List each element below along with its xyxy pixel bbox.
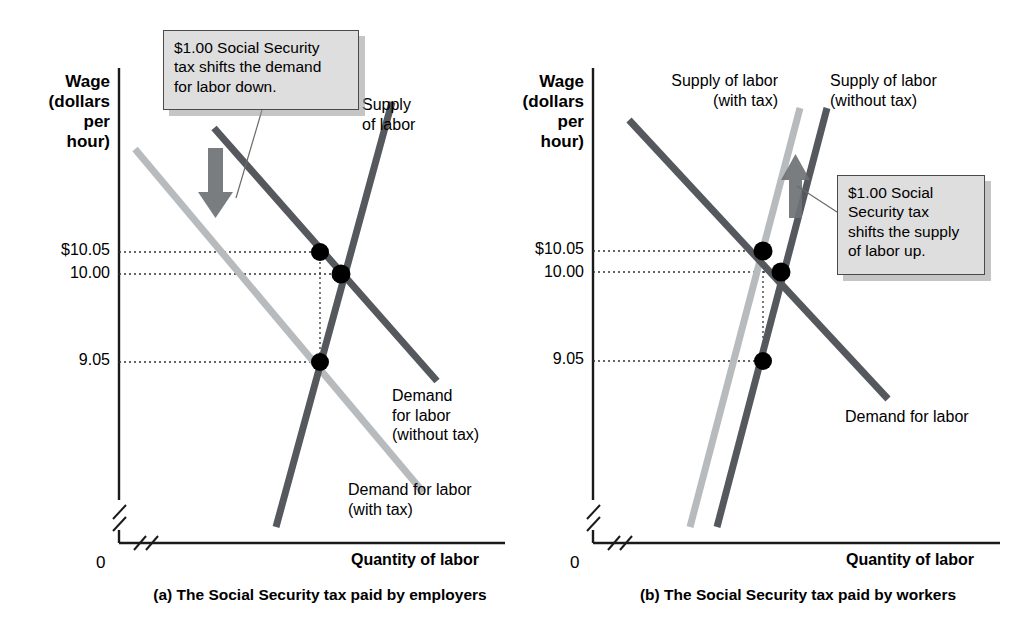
panel-b-label-supply-with-tax: Supply of labor (with tax) — [616, 71, 778, 110]
panel-b-y-axis-break-2 — [587, 517, 600, 531]
panel-a-callout: $1.00 Social Security tax shifts the dem… — [163, 30, 359, 110]
panel-a-label-demand-with-tax: Demand for labor (with tax) — [348, 480, 472, 519]
panel-a-shift-arrow-down — [198, 148, 233, 218]
panel-b-caption: (b) The Social Security tax paid by work… — [588, 586, 1008, 604]
panel-a-dot-905 — [311, 353, 329, 371]
panel-a-y-axis-title: Wage (dollars per hour) — [18, 72, 110, 152]
panel-b-curve-supply-with-tax — [690, 108, 800, 527]
panel-a-label-demand-without-tax: Demand for labor (without tax) — [392, 386, 479, 445]
panel-b-y-axis-title: Wage (dollars per hour) — [492, 72, 584, 152]
panel-b-tick-label-905: 9.05 — [492, 350, 584, 369]
panel-b-dot-905 — [754, 352, 772, 370]
panel-a-tick-label-1005: $10.05 — [18, 241, 110, 260]
panel-a-caption: (a) The Social Security tax paid by empl… — [110, 586, 530, 604]
panel-b-label-demand-for-labor: Demand for labor — [845, 407, 969, 427]
panel-b-x-axis-title: Quantity of labor — [846, 551, 974, 570]
panel-b-callout: $1.00 Social Security tax shifts the sup… — [837, 175, 985, 275]
panel-a-graphics — [113, 68, 505, 550]
panel-a-tick-label-1000: 10.00 — [18, 264, 110, 283]
panel-b-origin-label: 0 — [570, 553, 579, 573]
panel-b-graphics — [587, 68, 1000, 550]
panel-a-dot-1005 — [311, 243, 329, 261]
panel-b-dot-1000 — [772, 263, 791, 282]
panel-b-y-axis-break-1 — [587, 505, 600, 519]
panel-a-tick-label-905: 9.05 — [18, 351, 110, 370]
panel-a-dot-1000 — [332, 265, 351, 284]
panel-b-tick-label-1000: 10.00 — [492, 263, 584, 282]
panel-a-y-axis-break-1 — [113, 505, 126, 519]
panel-b-tick-label-1005: $10.05 — [492, 240, 584, 259]
figure-canvas: Wage (dollars per hour) $10.05 10.00 9.0… — [0, 0, 1023, 636]
panel-b-dot-1005 — [754, 242, 773, 261]
panel-b-label-supply-without-tax: Supply of labor (without tax) — [830, 71, 937, 110]
panel-a-origin-label: 0 — [96, 553, 105, 573]
panel-a-label-supply-of-labor: Supply of labor — [362, 95, 415, 134]
panel-a-y-axis-break-2 — [113, 517, 126, 531]
panel-a-x-axis-title: Quantity of labor — [351, 551, 479, 570]
